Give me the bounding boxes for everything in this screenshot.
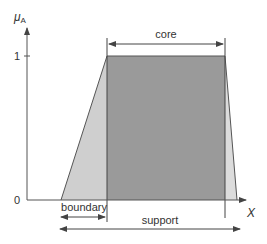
y-axis-label: μA: [13, 10, 27, 25]
core-label: core: [155, 28, 176, 40]
fuzzy-set-diagram: μA 1 0 X core boundary support: [0, 0, 267, 244]
boundary-label: boundary: [61, 201, 107, 213]
x-axis-label: X: [246, 206, 256, 220]
support-label: support: [142, 214, 179, 226]
y-tick-label-1: 1: [14, 50, 20, 62]
y-tick-label-0: 0: [14, 194, 20, 206]
core-region: [107, 56, 225, 200]
